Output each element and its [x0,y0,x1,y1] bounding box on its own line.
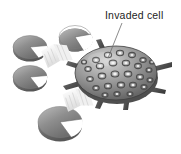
list-item [13,66,47,92]
cell-highlight [88,52,120,66]
list-item [38,107,83,142]
invaded-cell-diagram: Invaded cell [0,0,181,154]
invaded-cell-label: Invaded cell [105,9,163,21]
diagram-canvas: Invaded cell [0,0,181,154]
list-item [13,36,47,62]
